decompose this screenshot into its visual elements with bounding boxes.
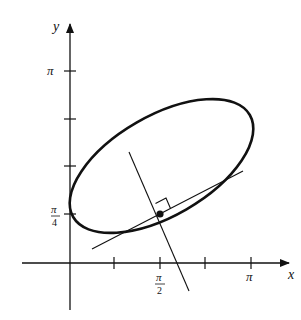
point-of-tangency [156,210,163,217]
tangent-line [92,171,243,249]
x-tick-label-pi: π [246,269,253,284]
y-tick-label-pi-over-4-num: π [51,203,57,215]
x-tick-label-pi-over-2-num: π [156,271,162,283]
ellipse-curve [48,72,275,261]
diagram-svg: y x π π 4 π 2 π [0,0,301,320]
right-angle-marker [156,198,171,209]
x-tick-label-pi-over-2-den: 2 [157,285,162,296]
x-axis-label: x [287,267,295,282]
y-axis-label: y [51,19,60,34]
y-tick-label-pi-over-4-den: 4 [52,217,57,228]
diagram-canvas: y x π π 4 π 2 π [0,0,301,320]
y-tick-label-pi: π [47,63,54,78]
